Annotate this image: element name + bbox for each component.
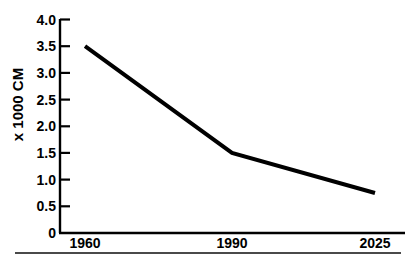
line-chart-figure: x 1000 CM 4.0 3.5 3.0 2.5 2.0 1.5 1.0 0.… [0, 0, 414, 268]
bottom-separator-rule [15, 252, 401, 254]
y-tick-label: 0.5 [22, 199, 56, 213]
y-tick-label: 4.0 [22, 13, 56, 27]
x-tick-label-1960: 1960 [50, 236, 120, 250]
y-tick-label: 3.0 [22, 66, 56, 80]
y-tick-label: 2.0 [22, 119, 56, 133]
data-series-line [85, 46, 375, 193]
y-tick-label: 1.5 [22, 146, 56, 160]
y-axis-tick-labels: 4.0 3.5 3.0 2.5 2.0 1.5 1.0 0.5 0 [16, 0, 56, 268]
x-tick-label-1990: 1990 [197, 236, 267, 250]
y-tick-label: 2.5 [22, 93, 56, 107]
x-tick-label-2025: 2025 [340, 236, 410, 250]
y-axis-ticks [60, 20, 70, 207]
plot-area [0, 0, 414, 268]
y-tick-label: 3.5 [22, 39, 56, 53]
y-tick-label: 1.0 [22, 173, 56, 187]
